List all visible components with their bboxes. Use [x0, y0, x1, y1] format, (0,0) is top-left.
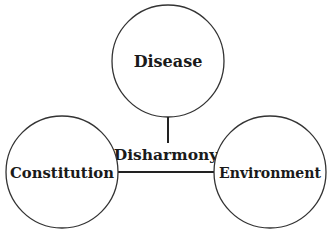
diagram-svg: Disease Disharmony Constitution Environm… [0, 0, 335, 235]
constitution-label: Constitution [10, 164, 114, 182]
node-constitution: Constitution [6, 116, 118, 228]
environment-label: Environment [219, 164, 321, 182]
node-environment: Environment [214, 116, 326, 228]
disharmony-label: Disharmony [114, 145, 220, 164]
node-disease: Disease [112, 5, 224, 117]
diagram-canvas: Disease Disharmony Constitution Environm… [0, 0, 335, 235]
disease-label: Disease [134, 52, 203, 71]
